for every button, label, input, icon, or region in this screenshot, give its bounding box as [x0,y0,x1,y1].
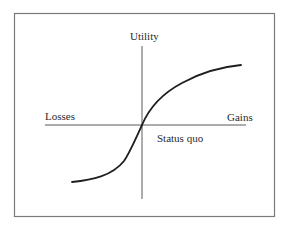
gains-label: Gains [227,112,253,123]
value-curve-losses [72,125,142,182]
losses-label: Losses [45,111,75,122]
status-quo-label: Status quo [157,133,203,144]
y-axis-label: Utility [130,31,159,42]
